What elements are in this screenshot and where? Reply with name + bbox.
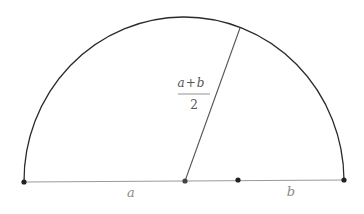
left-endpoint-dot [21, 179, 26, 184]
numerator-b: b [197, 76, 205, 90]
center-point-dot [182, 178, 187, 183]
fraction-denominator: 2 [190, 98, 198, 112]
split-point-dot [235, 177, 240, 182]
radius-fraction-label: a+b 2 [178, 76, 210, 112]
segment-a-label: a [127, 185, 135, 200]
numerator-plus: + [186, 76, 196, 90]
numerator-a: a [178, 76, 185, 90]
fraction-numerator: a+b [178, 76, 205, 90]
right-endpoint-dot [341, 177, 346, 182]
segment-b-label: b [287, 184, 295, 199]
semicircle-arc [24, 17, 344, 182]
semicircle-diagram: a+b 2 a b [0, 0, 364, 214]
